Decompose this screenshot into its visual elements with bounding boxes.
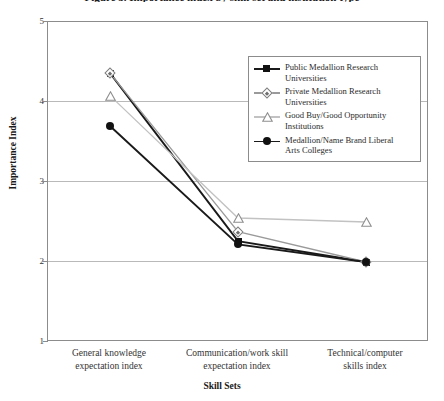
legend-label-3-line2: Arts Colleges [285, 145, 332, 155]
legend-key-triangle-icon [252, 110, 282, 124]
y-tick-label-3: 3 [22, 176, 44, 186]
data-point-2-1[interactable] [233, 213, 244, 223]
x-tick-label-2-line2: skills index [343, 361, 387, 371]
x-tick-label-1-line1: Communication/work skill [186, 348, 288, 358]
data-point-2-0[interactable] [105, 91, 116, 101]
legend-label-1-line2: Universities [285, 97, 327, 107]
legend-label-0: Public Medallion Research Universities [285, 62, 378, 83]
x-tick-label-0-line1: General knowledge [72, 348, 146, 358]
x-tick-label-1: Communication/work skill expectation ind… [172, 347, 302, 372]
legend-label-0-line2: Universities [285, 73, 327, 83]
legend-key-filled-square-icon [252, 62, 282, 76]
data-point-3-0[interactable] [106, 122, 114, 130]
legend-key-filled-circle-icon [252, 135, 282, 149]
legend-label-2-line1: Good Buy/Good Opportunity [285, 110, 386, 120]
y-tick-label-2: 2 [22, 256, 44, 266]
x-tick-label-2: Technical/computer skills index [300, 347, 430, 372]
x-tick-label-0: General knowledge expectation index [44, 347, 174, 372]
legend-label-0-line1: Public Medallion Research [285, 62, 378, 72]
legend-item-medallion-name-brand-liberal-arts-colleges[interactable]: Medallion/Name Brand Liberal Arts Colleg… [252, 135, 416, 156]
legend-label-2: Good Buy/Good Opportunity Institutions [285, 110, 386, 131]
y-tick-label-5: 5 [22, 16, 44, 26]
legend-label-3: Medallion/Name Brand Liberal Arts Colleg… [285, 135, 393, 156]
legend-item-private-medallion-research-universities[interactable]: Private Medallion Research Universities [252, 86, 416, 107]
legend-item-good-buy-good-opportunity-institutions[interactable]: Good Buy/Good Opportunity Institutions [252, 110, 416, 131]
y-tick-label-1: 1 [22, 336, 44, 346]
diamond-center-dot-icon [236, 231, 240, 235]
chart-container: Figure 5. Importance index by skill set … [0, 0, 444, 401]
legend: Public Medallion Research Universities P… [248, 56, 421, 162]
legend-label-1: Private Medallion Research Universities [285, 86, 380, 107]
y-tick-label-4: 4 [22, 96, 44, 106]
data-point-3-2[interactable] [362, 258, 370, 266]
x-tick-label-2-line1: Technical/computer [327, 348, 402, 358]
legend-key-diamond-dot-icon [252, 86, 282, 100]
data-point-2-2[interactable] [361, 217, 372, 227]
x-tick-label-0-line2: expectation index [75, 361, 142, 371]
legend-label-3-line1: Medallion/Name Brand Liberal [285, 135, 393, 145]
x-tick-label-1-line2: expectation index [203, 361, 270, 371]
x-axis-title: Skill Sets [0, 381, 444, 391]
legend-item-public-medallion-research-universities[interactable]: Public Medallion Research Universities [252, 62, 416, 83]
legend-label-1-line1: Private Medallion Research [285, 86, 380, 96]
legend-label-2-line2: Institutions [285, 121, 324, 131]
diamond-center-dot-icon [108, 72, 112, 76]
